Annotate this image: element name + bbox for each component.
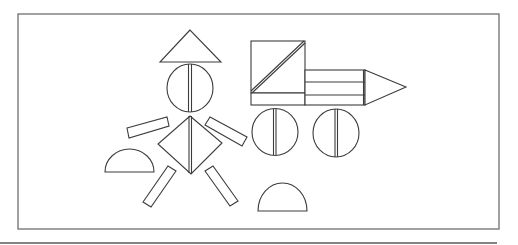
right-leg [205, 166, 238, 206]
head-circle [167, 64, 213, 112]
hat-triangle [160, 30, 221, 62]
nose-triangle [365, 70, 406, 105]
cab-base-strip [251, 93, 305, 105]
person-figure [127, 30, 247, 207]
left-arm [127, 117, 169, 138]
front-wheel [313, 109, 359, 157]
cab-square [251, 41, 305, 93]
body-rectangles [305, 70, 365, 105]
figure-canvas [0, 0, 518, 245]
rear-wheel [252, 109, 298, 156]
bottom-semicircle [258, 183, 307, 211]
vehicle-figure [251, 41, 406, 157]
left-semicircle [105, 149, 154, 172]
